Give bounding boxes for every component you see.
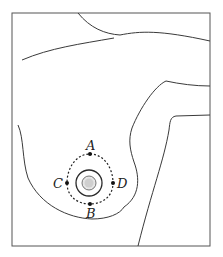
diagram-frame	[12, 13, 210, 246]
arm-outer-contour	[124, 81, 210, 207]
point-c-dot	[65, 181, 69, 185]
point-b-label: B	[85, 206, 96, 221]
nipple-inner	[85, 179, 94, 188]
arm-inner-contour	[138, 115, 210, 246]
point-d-label: D	[116, 176, 128, 191]
breast-diagram: A B C D	[0, 0, 223, 257]
shoulder-line	[78, 13, 210, 41]
point-d-dot	[111, 181, 115, 185]
breast-contour	[18, 125, 124, 219]
point-c-label: C	[53, 176, 63, 191]
collarbone-line	[22, 38, 114, 60]
point-a-label: A	[85, 138, 95, 153]
